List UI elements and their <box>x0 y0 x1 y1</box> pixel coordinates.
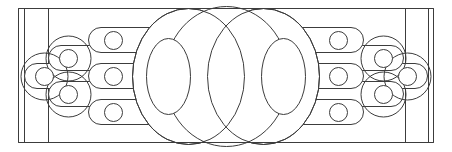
geometric-line-diagram <box>0 0 452 152</box>
circle-right-tier1-bottom <box>330 104 348 122</box>
circle-right-tier3-center <box>399 68 417 86</box>
circle-left-tier1-top <box>105 32 123 50</box>
circle-right-tier2-lower <box>375 86 393 104</box>
circle-left-tier1-bottom <box>105 104 123 122</box>
inner-left-ellipse <box>147 39 191 115</box>
circle-right-tier1-middle <box>330 68 348 86</box>
circle-right-tier2-upper <box>375 50 393 68</box>
circle-right-tier1-top <box>330 32 348 50</box>
inner-right-ellipse <box>262 39 306 115</box>
circle-left-tier1-middle <box>105 68 123 86</box>
circle-left-tier3-center <box>36 68 54 86</box>
figure-canvas <box>0 0 452 152</box>
circle-left-tier2-upper <box>60 50 78 68</box>
circle-left-tier2-lower <box>60 86 78 104</box>
